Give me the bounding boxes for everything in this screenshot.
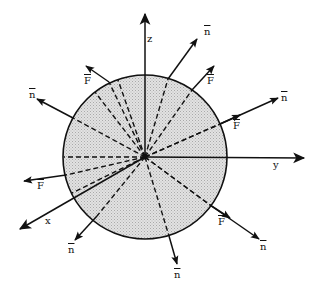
n-bottom-left-arrow <box>75 216 97 240</box>
diagram-canvas <box>0 0 319 294</box>
x-axis-label: x <box>45 216 51 226</box>
n-upper-right-arrow <box>168 39 197 79</box>
F-lower-right-label: F <box>218 217 225 227</box>
n-bottom-arrow <box>169 236 177 264</box>
n-bottom-label: n <box>174 270 180 280</box>
F-upper-left-label: F <box>84 76 91 86</box>
F-left-label: F <box>37 181 44 191</box>
n-bottom-left-label: n <box>68 245 74 255</box>
n-right-label: n <box>281 93 287 103</box>
y-axis-label: y <box>273 160 279 170</box>
z-axis-label: z <box>147 34 152 44</box>
F-upper-right-label: F <box>207 76 214 86</box>
n-lower-right-label: n <box>260 242 266 252</box>
sphere-force-diagram: zyxnFnFnFFnnnF <box>0 0 319 294</box>
n-upper-left-arrow <box>37 99 73 118</box>
F-right-label: F <box>233 121 240 131</box>
center-point <box>143 155 148 160</box>
n-upper-left-label: n <box>29 90 35 100</box>
sphere-center <box>143 155 148 160</box>
n-upper-right-label: n <box>204 27 210 37</box>
F-left-arrow <box>24 175 66 181</box>
y-axis <box>145 157 304 158</box>
